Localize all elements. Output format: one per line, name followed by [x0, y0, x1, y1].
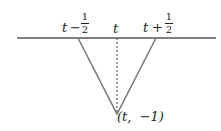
diagram-canvas: [0, 0, 221, 131]
label-left-op: −: [70, 21, 81, 34]
label-right-var: t: [143, 21, 148, 34]
numerator: 1: [166, 12, 172, 22]
label-apex: (t, −1): [117, 110, 164, 123]
fraction-half: 1 2: [81, 12, 89, 35]
numerator: 1: [82, 12, 88, 22]
label-left-var: t: [62, 21, 67, 34]
label-right-op: +: [152, 21, 163, 34]
label-center: t: [113, 22, 118, 35]
denominator: 2: [82, 25, 88, 35]
denominator: 2: [166, 25, 172, 35]
fraction-half: 1 2: [165, 12, 173, 35]
